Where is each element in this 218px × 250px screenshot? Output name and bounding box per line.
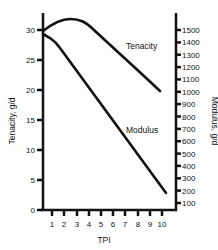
tick-label: 1100 xyxy=(182,75,200,84)
tick-label: 9 xyxy=(148,220,153,229)
tick-label: 25 xyxy=(26,56,35,65)
x-axis-title: TPI xyxy=(97,235,110,245)
tick-label: 300 xyxy=(182,174,196,183)
tick-label: 10 xyxy=(158,220,167,229)
tick-label: 2 xyxy=(62,220,67,229)
tick-label: 20 xyxy=(26,86,35,95)
right-y-axis-title: Modulus, g/d xyxy=(210,97,218,146)
tick-label: 30 xyxy=(26,26,35,35)
tick-label: 1200 xyxy=(182,63,200,72)
left-y-tick-labels: 0 5 10 15 20 25 30 xyxy=(26,26,35,215)
modulus-line xyxy=(43,34,166,193)
tick-label: 0 xyxy=(31,206,36,215)
tick-label: 900 xyxy=(182,100,196,109)
tick-label: 1 xyxy=(50,220,55,229)
right-y-tick-labels: 100 200 300 400 500 600 700 800 900 1000… xyxy=(182,26,200,208)
tick-label: 100 xyxy=(182,199,196,208)
tick-label: 200 xyxy=(182,187,196,196)
tick-label: 10 xyxy=(26,146,35,155)
tick-label: 4 xyxy=(87,220,92,229)
tick-label: 800 xyxy=(182,113,196,122)
left-y-axis-title: Tenacity, g/d xyxy=(7,97,17,144)
tick-label: 8 xyxy=(136,220,141,229)
tick-label: 1500 xyxy=(182,26,200,35)
tick-label: 500 xyxy=(182,150,196,159)
tick-label: 1300 xyxy=(182,51,200,60)
chart-canvas: 0 5 10 15 20 25 30 1 2 3 4 5 6 7 8 9 10 xyxy=(0,0,218,250)
tick-label: 600 xyxy=(182,137,196,146)
tick-label: 6 xyxy=(111,220,116,229)
tick-label: 5 xyxy=(31,176,36,185)
tick-label: 400 xyxy=(182,162,196,171)
tick-label: 5 xyxy=(99,220,104,229)
tick-label: 7 xyxy=(123,220,128,229)
tick-label: 15 xyxy=(26,116,35,125)
x-tick-labels: 1 2 3 4 5 6 7 8 9 10 xyxy=(50,220,167,229)
tick-label: 3 xyxy=(75,220,80,229)
right-y-ticks xyxy=(176,30,181,203)
modulus-label: Modulus xyxy=(126,125,158,135)
tick-label: 700 xyxy=(182,125,196,134)
tenacity-line xyxy=(43,19,160,91)
tenacity-label: Tenacity xyxy=(126,41,158,51)
tick-label: 1000 xyxy=(182,88,200,97)
tick-label: 1400 xyxy=(182,38,200,47)
